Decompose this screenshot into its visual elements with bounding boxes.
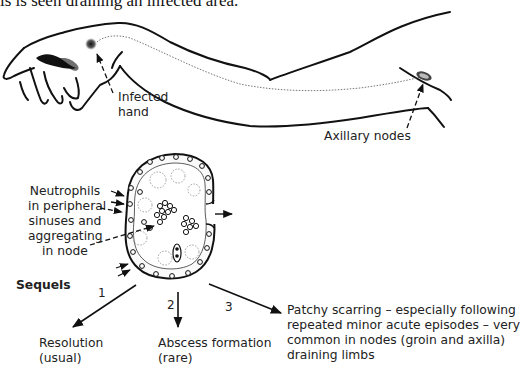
arm-outline — [4, 12, 451, 127]
axillary-nodes-pointer — [407, 84, 423, 128]
sequels-heading: Sequels — [16, 278, 71, 293]
sequel-2-text: Abscess formation (rare) — [158, 336, 271, 366]
axillary-node-icon — [415, 70, 433, 83]
sequel-2-number: 2 — [167, 298, 175, 312]
hand-shading — [36, 54, 79, 71]
sequel-3-arrow — [209, 284, 281, 313]
sequel-3-number: 3 — [225, 300, 233, 314]
lymphatic-channel — [97, 36, 420, 91]
infection-spot-icon — [85, 38, 97, 50]
sequel-3-text: Patchy scarring – especially following r… — [287, 303, 520, 363]
neutrophils-label: Neutrophils in peripheral sinuses and ag… — [28, 184, 102, 259]
lymph-node-diagram — [125, 154, 217, 278]
infected-hand-label: Infected hand — [118, 90, 168, 120]
sequel-1-number: 1 — [98, 286, 106, 300]
sequel-1-text: Resolution (usual) — [39, 336, 103, 366]
axillary-nodes-label: Axillary nodes — [324, 129, 411, 144]
